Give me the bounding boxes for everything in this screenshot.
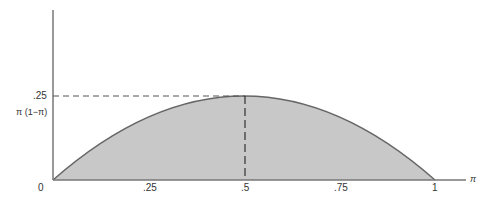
x-tick-label: .25 xyxy=(143,183,157,193)
x-tick-label: 1 xyxy=(432,183,438,193)
chart-canvas xyxy=(0,0,494,207)
origin-label: 0 xyxy=(38,183,44,193)
x-tick-label: .75 xyxy=(334,183,348,193)
y-tick-label: .25 xyxy=(33,91,47,101)
x-tick-label: .5 xyxy=(241,183,249,193)
x-axis-label: π xyxy=(470,175,476,184)
y-axis-label: π (1−π) xyxy=(16,108,47,117)
